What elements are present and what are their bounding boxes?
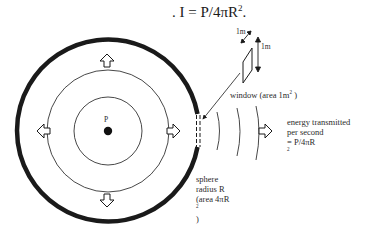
window-opening [197, 115, 201, 147]
arrow-down-icon [100, 194, 114, 207]
sphere-line-3-suffix: ) [196, 214, 229, 224]
point-source-dot [104, 127, 112, 135]
arrow-up-icon [100, 54, 114, 67]
energy-transmitted-label: energy transmitted per second = P/4πR2 [287, 117, 350, 157]
vertical-dimension-arrow [256, 37, 261, 72]
energy-line-3-text: = P/4πR [287, 137, 350, 147]
diagonal-dimension-label: 1m [236, 27, 246, 37]
energy-line-2: per second [287, 127, 350, 137]
formula-text: . I = P/4πR [172, 4, 238, 20]
formula-suffix: . [243, 4, 247, 20]
transmitted-wavefronts [217, 106, 259, 160]
sphere-line-2: radius R [196, 184, 229, 194]
source-label: P [104, 115, 108, 125]
sphere-line-3-exponent: 2 [196, 203, 199, 209]
intensity-formula: . I = P/4πR2. [172, 3, 246, 21]
energy-line-3-exponent: 2 [287, 146, 290, 152]
window-label-suffix: ) [292, 90, 297, 100]
sphere-line-3-text: (area 4πR [196, 194, 229, 204]
sphere-label: sphere radius R (area 4πR2 ) [196, 174, 229, 224]
sphere-line-3: (area 4πR2 ) [196, 194, 229, 224]
arrow-left-icon [37, 124, 50, 138]
vertical-dimension-label: 1m [261, 42, 271, 52]
sphere-line-1: sphere [196, 174, 229, 184]
window-label-text: window (area 1m [230, 90, 289, 100]
window-label: window (area 1m2 ) [230, 90, 297, 100]
unit-window-parallelogram [243, 48, 252, 83]
energy-line-1: energy transmitted [287, 117, 350, 127]
arrow-transmitted-icon [259, 124, 272, 138]
energy-line-3: = P/4πR2 [287, 137, 350, 157]
